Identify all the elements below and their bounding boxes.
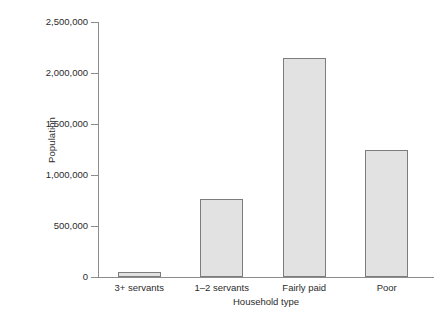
x-axis-line: [98, 277, 434, 278]
y-axis-tick-labels: 0500,0001,000,0001,500,0002,000,0002,500…: [4, 0, 88, 325]
x-axis-tick-label: 1–2 servants: [181, 281, 264, 294]
y-axis-tick-label: 2,500,000: [10, 17, 88, 27]
bar: [283, 58, 326, 277]
plot-area: [98, 22, 428, 277]
x-axis-title: Household type: [98, 296, 434, 307]
y-axis-tick: [91, 175, 99, 176]
x-axis-tick-label: Poor: [346, 281, 429, 294]
x-axis-tick-label: Fairly paid: [263, 281, 346, 294]
x-axis-tick-label: 3+ servants: [98, 281, 181, 294]
y-axis-tick-label: 1,500,000: [10, 119, 88, 129]
bar: [118, 272, 161, 277]
bar-chart: Population 0500,0001,000,0001,500,0002,0…: [0, 0, 444, 325]
y-axis-tick-label: 0: [10, 272, 88, 282]
y-axis-tick-label: 2,000,000: [10, 68, 88, 78]
y-axis-tick: [91, 22, 99, 23]
y-axis-tick: [91, 277, 99, 278]
y-axis-tick: [91, 124, 99, 125]
x-axis-tick-labels: 3+ servants1–2 servantsFairly paidPoor: [98, 281, 434, 297]
y-axis-tick: [91, 226, 99, 227]
y-axis-tick-label: 1,000,000: [10, 170, 88, 180]
bar: [365, 150, 408, 277]
y-axis-tick-label: 500,000: [10, 221, 88, 231]
y-axis-tick: [91, 73, 99, 74]
bar: [200, 199, 243, 277]
